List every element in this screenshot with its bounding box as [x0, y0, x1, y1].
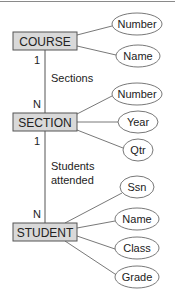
- attribute-student-ssn: Ssn: [120, 176, 154, 198]
- entity-section-label: SECTION: [18, 116, 71, 130]
- relationship-label-sections: Sections: [51, 72, 94, 84]
- connector-section-number: [77, 96, 112, 114]
- connector-section-qtr: [77, 130, 123, 148]
- entity-course: COURSE: [13, 32, 77, 50]
- attribute-course-number-label: Number: [117, 18, 156, 30]
- attribute-course-name: Name: [116, 45, 160, 67]
- attribute-student-name: Name: [115, 208, 159, 230]
- attribute-section-number-label: Number: [117, 88, 156, 100]
- connector-student-name: [77, 221, 115, 228]
- attribute-course-name-label: Name: [123, 50, 152, 62]
- attribute-student-grade-label: Grade: [122, 271, 153, 283]
- attribute-student-ssn-label: Ssn: [128, 181, 147, 193]
- connector-course-number: [77, 26, 112, 35]
- entity-student-label: STUDENT: [17, 226, 74, 240]
- attribute-section-year-label: Year: [127, 116, 150, 128]
- attribute-student-class: Class: [115, 237, 159, 259]
- connector-student-ssn: [65, 193, 122, 223]
- attribute-section-qtr: Qtr: [123, 139, 153, 161]
- cardinality-course-1: 1: [34, 54, 40, 66]
- attribute-section-year: Year: [118, 111, 158, 133]
- connector-course-name: [77, 46, 116, 55]
- cardinality-student-n: N: [33, 208, 41, 220]
- cardinality-section-1: 1: [34, 135, 40, 147]
- connector-student-grade: [65, 241, 118, 276]
- entity-course-label: COURSE: [19, 35, 70, 49]
- cardinality-section-n: N: [33, 98, 41, 110]
- er-diagram: COURSE Number Name 1 Sections N SECTION …: [0, 0, 175, 303]
- attribute-student-grade: Grade: [115, 266, 159, 288]
- connector-student-class: [77, 236, 115, 249]
- relationship-label-attended: attended: [51, 174, 94, 186]
- attribute-course-number: Number: [112, 13, 162, 35]
- attribute-student-class-label: Class: [123, 242, 151, 254]
- attribute-section-qtr-label: Qtr: [130, 144, 146, 156]
- relationship-label-students: Students: [51, 160, 95, 172]
- entity-student: STUDENT: [13, 223, 77, 241]
- attribute-section-number: Number: [112, 83, 162, 105]
- entity-section: SECTION: [13, 113, 77, 131]
- attribute-student-name-label: Name: [122, 213, 151, 225]
